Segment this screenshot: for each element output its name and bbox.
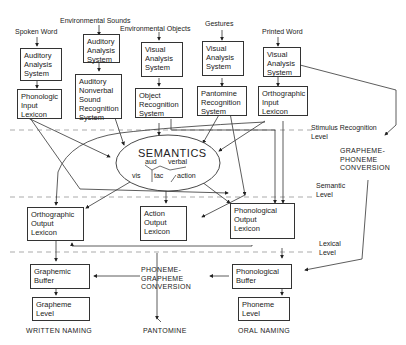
cognitive-model-diagram: Spoken Word Environmental Sounds Environ… — [0, 0, 406, 345]
auditory-analysis-system-sounds: Auditory Analysis System — [83, 34, 120, 63]
pantomime-recognition-system: Pantomine Recognition System — [197, 86, 247, 116]
grapheme-phoneme-conversion: GRAPHEME- PHONEME CONVERSION — [340, 147, 390, 173]
orthographic-output-lexicon: Orthographic Output Lexicon — [27, 207, 84, 241]
object-recognition-system: Object Recognition System — [135, 88, 183, 118]
input-gestures: Gestures — [205, 20, 233, 29]
semantics-verbal: verbal — [168, 158, 187, 165]
semantics-aud: aud — [145, 158, 157, 165]
input-spoken-word: Spoken Word — [15, 28, 57, 37]
phoneme-grapheme-conversion: PHONEME- GRAPHEME CONVERSION — [141, 266, 191, 292]
graphemic-buffer: Graphemic Buffer — [30, 264, 90, 289]
auditory-analysis-system-spoken: Auditory Analysis System — [20, 48, 62, 81]
phoneme-level: Phoneme Level — [238, 297, 290, 321]
semantics-action: action — [177, 172, 196, 179]
stimulus-recognition-level-label: Stimulus Recognition Level — [311, 124, 377, 141]
semantics-tac: tac — [154, 172, 163, 179]
phonological-buffer: Phonological Buffer — [232, 264, 292, 289]
visual-analysis-system-gestures: Visual Analysis System — [202, 41, 244, 76]
visual-analysis-system-objects: Visual Analysis System — [141, 42, 183, 77]
action-output-lexicon: Action Output Lexicon — [140, 206, 187, 241]
semantics-vis: vis — [132, 172, 141, 179]
pantomime-output: PANTOMINE — [143, 327, 187, 336]
auditory-nonverbal-sound-recognition-system: Auditory Nonverbal Sound Recognition Sys… — [75, 74, 122, 119]
semantic-level-label: Semantic Level — [316, 182, 345, 199]
orthographic-input-lexicon: Orthographic Input Lexicon — [258, 86, 308, 116]
lexical-level-label: Lexical Level — [319, 240, 341, 257]
written-naming-output: WRITTEN NAMING — [26, 327, 92, 336]
phonological-output-lexicon: Phonological Output Lexicon — [230, 203, 295, 239]
visual-analysis-system-printed: Visual Analysis System — [263, 47, 301, 77]
oral-naming-output: ORAL NAMING — [238, 327, 290, 336]
phonologic-input-lexicon: Phonologic Input Lexicon — [17, 89, 62, 119]
grapheme-level: Grapheme Level — [32, 297, 90, 321]
input-environmental-objects: Environmental Objects — [120, 25, 190, 34]
input-printed-word: Printed Word — [262, 28, 303, 37]
